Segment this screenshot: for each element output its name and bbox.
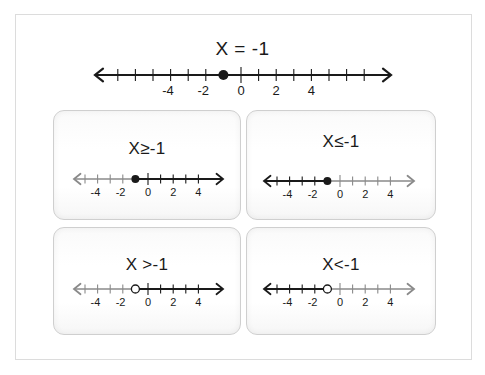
svg-text:4: 4 xyxy=(195,296,201,308)
svg-text:-4: -4 xyxy=(162,83,174,98)
card-greater-equal: X≥-1 -4-2024 xyxy=(53,110,241,220)
svg-text:0: 0 xyxy=(337,296,343,308)
card-less-than: X<-1 -4-2024 xyxy=(246,227,436,335)
svg-text:-2: -2 xyxy=(116,186,126,198)
svg-text:0: 0 xyxy=(237,83,244,98)
svg-text:4: 4 xyxy=(387,188,393,200)
card-title: X<-1 xyxy=(247,255,435,275)
svg-text:-4: -4 xyxy=(283,188,293,200)
svg-text:-4: -4 xyxy=(283,296,293,308)
number-line-greater-equal: -4-2024 xyxy=(54,167,242,207)
card-less-equal: X≤-1 -4-2024 xyxy=(246,110,436,220)
svg-text:2: 2 xyxy=(362,296,368,308)
number-line-less-than: -4-2024 xyxy=(247,277,437,317)
svg-text:-2: -2 xyxy=(308,188,318,200)
svg-text:4: 4 xyxy=(387,296,393,308)
svg-text:0: 0 xyxy=(337,188,343,200)
svg-text:-4: -4 xyxy=(91,186,101,198)
card-title: X >-1 xyxy=(54,255,240,275)
card-greater-than: X >-1 -4-2024 xyxy=(53,227,241,335)
svg-text:0: 0 xyxy=(145,186,151,198)
svg-text:0: 0 xyxy=(145,296,151,308)
card-title: X≤-1 xyxy=(247,132,435,152)
number-line-less-equal: -4-2024 xyxy=(247,169,437,209)
svg-text:-2: -2 xyxy=(197,83,209,98)
svg-text:2: 2 xyxy=(362,188,368,200)
svg-text:-2: -2 xyxy=(308,296,318,308)
card-title: X≥-1 xyxy=(54,139,240,159)
svg-text:4: 4 xyxy=(195,186,201,198)
svg-text:2: 2 xyxy=(170,186,176,198)
svg-text:2: 2 xyxy=(273,83,280,98)
svg-text:2: 2 xyxy=(170,296,176,308)
svg-text:4: 4 xyxy=(308,83,315,98)
svg-text:-4: -4 xyxy=(91,296,101,308)
main-number-line: -4-2024 xyxy=(0,56,485,101)
svg-text:-2: -2 xyxy=(116,296,126,308)
number-line-greater-than: -4-2024 xyxy=(54,277,242,317)
